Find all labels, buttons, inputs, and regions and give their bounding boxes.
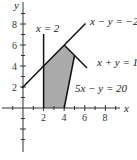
x-tick-label: 2 <box>41 112 46 123</box>
y-tick-label: 8 <box>12 19 17 30</box>
y-tick-label: 6 <box>12 40 17 51</box>
x-tick-label: 6 <box>82 112 87 123</box>
y-tick-label: 4 <box>12 61 17 72</box>
y-axis-label: y <box>13 0 19 11</box>
x-tick-label: 8 <box>103 112 108 123</box>
feasible-region-plot: 2 4 6 8 2 4 6 8 x y x = 2 x − y = −2 x +… <box>0 0 137 160</box>
y-tick-label: 2 <box>12 82 17 93</box>
x-tick-label: 4 <box>62 112 67 123</box>
label-x-eq-2: x = 2 <box>35 22 60 34</box>
x-axis-label: x <box>123 102 129 114</box>
label-x-plus-y-eq-10: x + y = 10 <box>96 56 137 68</box>
label-x-minus-y-eq-neg2: x − y = −2 <box>89 15 137 27</box>
label-5x-minus-y-eq-20: 5x − y = 20 <box>75 82 128 94</box>
